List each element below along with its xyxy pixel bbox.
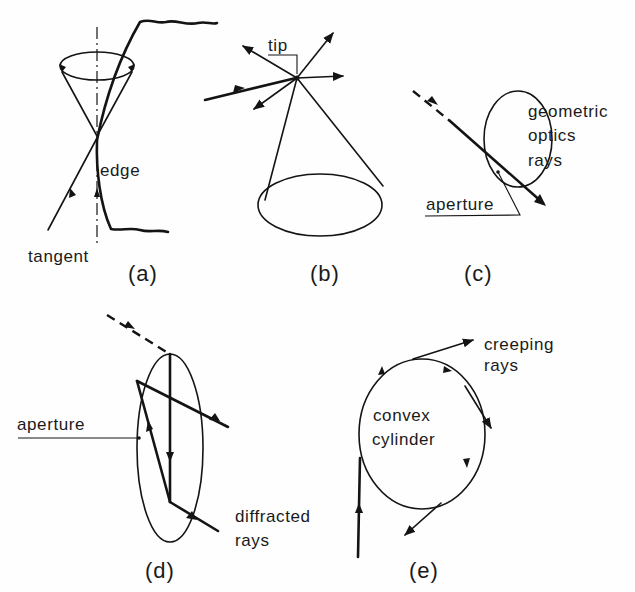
leader-dot [137,436,141,440]
cone-side-left [62,72,97,136]
panel-caption-c: (c) [464,261,493,286]
panel-b: tip (b) [205,33,383,286]
aperture-label: aperture [17,415,85,434]
panel-caption-d: (d) [145,558,175,583]
panel-caption-a: (a) [128,261,158,286]
arrow-icon [463,458,470,468]
panel-c: geometric optics rays aperture (c) [413,91,608,286]
rays-label: rays [528,151,563,170]
panel-caption-e: (e) [409,558,439,583]
convex-label: convex [373,406,430,425]
panel-d: aperture diffracted rays (d) [17,315,311,583]
tip-leader-line [268,55,297,74]
diffracted-ray [297,33,333,78]
panel-caption-b: (b) [310,261,340,286]
geometric-label: geometric [528,102,608,121]
edge-curve-lower [97,140,168,232]
optics-label: optics [528,126,576,145]
cone-base [258,174,382,236]
panel-e: convex cylinder creeping rays (e) [355,335,554,583]
shed-ray [413,340,473,359]
edge-label: edge [100,161,140,180]
diffracted-ray [297,76,343,78]
shed-ray [465,386,491,428]
tip-label: tip [268,36,288,55]
rays-label: rays [235,531,270,550]
cone-side-right [97,72,132,136]
diffraction-ray-figure: edge tangent (a) tip (b) geometric optic… [0,0,635,592]
tangent-label: tangent [28,247,89,266]
aperture-label: aperture [426,195,494,214]
cylinder-label: cylinder [372,430,435,449]
creeping-label: creeping [484,335,554,354]
figure-canvas: edge tangent (a) tip (b) geometric optic… [0,0,635,592]
tangent-ray [48,138,97,230]
incident-ray-dashed [413,91,450,121]
arrow-icon [378,366,385,375]
arrow-icon [355,503,363,513]
panel-a: edge tangent (a) [28,21,217,286]
arrow-icon [69,188,76,198]
internal-ray-slant [137,381,170,502]
diffracted-label: diffracted [235,507,311,526]
incident-ray-dashed [107,315,168,353]
rays-label: rays [484,356,519,375]
cone-side-right [297,78,383,186]
edge-curve-upper [97,21,217,140]
tip-point [295,76,300,81]
arrow-icon [166,452,174,462]
